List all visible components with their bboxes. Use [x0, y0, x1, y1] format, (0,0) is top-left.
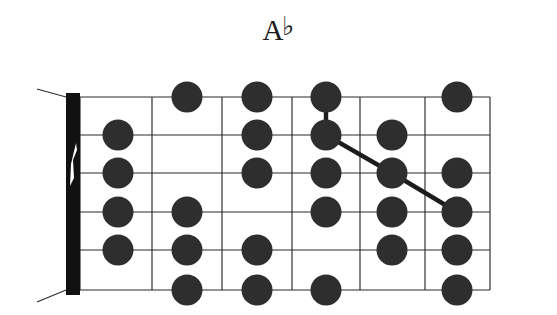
fretboard-diagram-page: A♭ — [0, 0, 557, 315]
note-dot-s5-f6[interactable] — [442, 235, 473, 266]
note-dot-s3-f5[interactable] — [377, 158, 408, 189]
note-dot-s2-f1[interactable] — [103, 120, 134, 151]
note-dot-s1-f3[interactable] — [242, 82, 273, 113]
note-dot-s6-f6[interactable] — [442, 275, 473, 306]
note-dot-s4-f1[interactable] — [103, 197, 134, 228]
guitar-fretboard-diagram — [0, 0, 557, 315]
headstock-edges — [37, 89, 66, 302]
note-dot-s4-f2[interactable] — [172, 197, 203, 228]
note-dot-s4-f6[interactable] — [442, 197, 473, 228]
note-dot-s3-f3[interactable] — [242, 158, 273, 189]
note-dot-s2-f5[interactable] — [377, 120, 408, 151]
note-dot-s5-f2[interactable] — [172, 235, 203, 266]
note-dot-s1-f4[interactable] — [311, 82, 342, 113]
note-dot-s6-f4[interactable] — [311, 275, 342, 306]
nut-bar — [66, 93, 80, 295]
headstock-edge-bottom — [37, 290, 66, 302]
note-dot-s2-f4[interactable] — [311, 120, 342, 151]
note-dot-s5-f3[interactable] — [242, 235, 273, 266]
note-dot-s6-f3[interactable] — [242, 275, 273, 306]
note-dot-s4-f4[interactable] — [311, 197, 342, 228]
note-dot-s3-f1[interactable] — [103, 158, 134, 189]
note-dot-s3-f6[interactable] — [442, 158, 473, 189]
nut-bar-rect — [66, 93, 80, 295]
note-dot-s4-f5[interactable] — [377, 197, 408, 228]
note-dots — [103, 82, 473, 306]
note-dot-s2-f3[interactable] — [242, 120, 273, 151]
fretboard-svg — [0, 0, 557, 315]
note-dot-s5-f5[interactable] — [377, 235, 408, 266]
note-connector-line — [326, 97, 457, 212]
note-dot-s1-f2[interactable] — [172, 82, 203, 113]
note-dot-s1-f6[interactable] — [442, 82, 473, 113]
note-dot-s6-f2[interactable] — [172, 275, 203, 306]
headstock-edge-top — [37, 89, 66, 97]
connector-polyline — [326, 97, 457, 212]
note-dot-s5-f1[interactable] — [103, 235, 134, 266]
note-dot-s3-f4[interactable] — [311, 158, 342, 189]
